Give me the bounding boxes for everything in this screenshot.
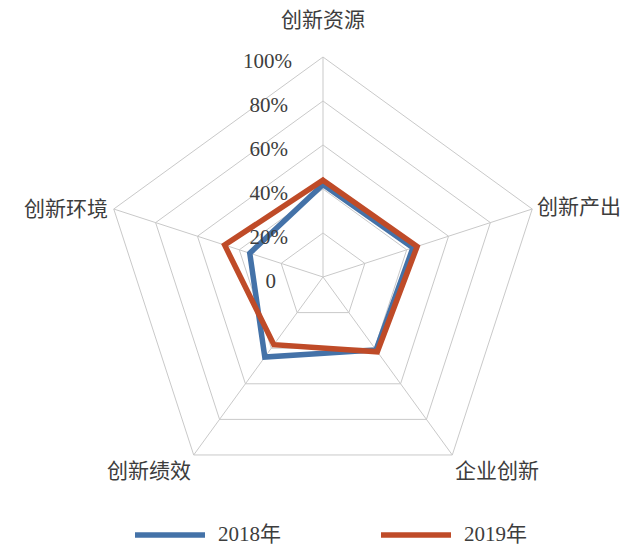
legend-label-2019: 2019年: [464, 522, 527, 546]
tick-label-0: 0: [266, 269, 277, 293]
tick-label-100: 100%: [243, 49, 292, 73]
axis-spokes: [114, 57, 532, 455]
category-label-left: 创新环境: [24, 197, 108, 220]
tick-label-60: 60%: [250, 137, 289, 161]
category-label-top: 创新资源: [281, 8, 365, 31]
category-label-right: 创新产出: [537, 195, 621, 218]
axis-spoke-2: [323, 277, 452, 455]
tick-label-80: 80%: [250, 93, 289, 117]
radar-chart-svg: 100% 80% 60% 40% 20% 0 创新资源 创新产出 企业创新 创新…: [0, 0, 625, 552]
tick-label-40: 40%: [250, 181, 289, 205]
tick-label-20: 20%: [250, 225, 289, 249]
legend: 2018年 2019年: [135, 522, 527, 546]
axis-spoke-4: [114, 209, 323, 277]
axis-spoke-1: [323, 209, 532, 277]
category-label-bottom-right: 企业创新: [455, 459, 539, 482]
category-label-bottom-left: 创新绩效: [107, 459, 191, 482]
radar-chart-container: 100% 80% 60% 40% 20% 0 创新资源 创新产出 企业创新 创新…: [0, 0, 625, 552]
series-layer: [225, 180, 417, 357]
legend-label-2018: 2018年: [218, 522, 281, 546]
